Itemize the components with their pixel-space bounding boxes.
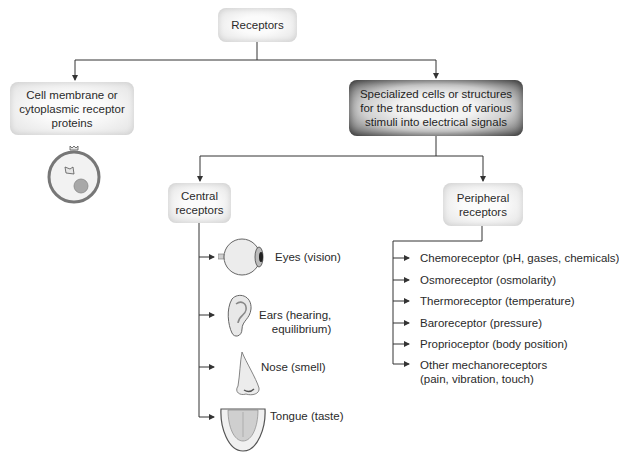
peripheral-item-thermoreceptor: Thermoreceptor (temperature)	[420, 294, 575, 308]
mechanoreceptors-label-2: (pain, vibration, touch)	[420, 372, 547, 386]
tongue-icon	[218, 407, 268, 453]
specialized-label-3: stimuli into electrical signals	[360, 115, 512, 129]
eye-icon	[218, 238, 270, 278]
specialized-cells-node: Specialized cells or structures for the …	[349, 80, 523, 136]
peripheral-receptors-node: Peripheral receptors	[443, 183, 523, 226]
central-item-ears: Ears (hearing, equilibrium)	[259, 308, 331, 336]
cell-icon	[44, 143, 104, 205]
central-label-1: Central	[176, 189, 224, 203]
ear-icon	[224, 293, 254, 339]
central-item-eyes: Eyes (vision)	[275, 250, 341, 264]
peripheral-item-proprioceptor: Proprioceptor (body position)	[420, 337, 568, 351]
specialized-label-2: for the transduction of various	[360, 101, 512, 115]
ears-label-1: Ears (hearing,	[259, 308, 331, 322]
peripheral-label-1: Peripheral	[457, 191, 509, 205]
peripheral-item-chemoreceptor: Chemoreceptor (pH, gases, chemicals)	[420, 251, 619, 265]
ears-label-2: equilibrium)	[259, 322, 331, 336]
cell-membrane-node: Cell membrane or cytoplasmic receptor pr…	[10, 82, 134, 135]
cell-membrane-label-1: Cell membrane or	[19, 88, 124, 102]
peripheral-item-baroreceptor: Baroreceptor (pressure)	[420, 316, 542, 330]
nose-icon	[232, 350, 262, 398]
receptors-root-node: Receptors	[218, 8, 297, 42]
central-label-2: receptors	[176, 203, 224, 217]
peripheral-label-2: receptors	[457, 205, 509, 219]
specialized-label-1: Specialized cells or structures	[360, 87, 512, 101]
cell-membrane-label-2: cytoplasmic receptor	[19, 102, 124, 116]
cell-membrane-label-3: proteins	[19, 116, 124, 130]
mechanoreceptors-label-1: Other mechanoreceptors	[420, 358, 547, 372]
peripheral-item-mechanoreceptors: Other mechanoreceptors (pain, vibration,…	[420, 358, 547, 386]
central-item-nose: Nose (smell)	[261, 360, 326, 374]
receptors-root-label: Receptors	[231, 18, 283, 32]
peripheral-item-osmoreceptor: Osmoreceptor (osmolarity)	[420, 273, 556, 287]
central-receptors-node: Central receptors	[168, 183, 231, 223]
central-item-tongue: Tongue (taste)	[270, 409, 344, 423]
